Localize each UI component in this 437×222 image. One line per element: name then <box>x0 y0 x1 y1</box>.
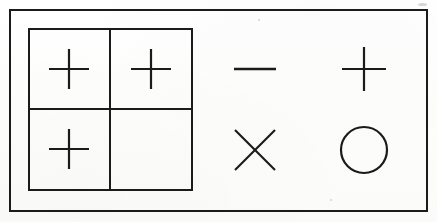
matrix-reasoning-figure <box>0 0 437 222</box>
cross-icon <box>232 127 278 173</box>
answer-option-1[interactable] <box>200 28 309 110</box>
matrix-grid <box>28 28 193 191</box>
matrix-cell-top-left[interactable] <box>30 30 111 110</box>
circle-icon <box>339 125 389 175</box>
scan-artifact <box>418 3 427 6</box>
matrix-cell-bottom-right-empty[interactable] <box>111 110 192 190</box>
matrix-cell-top-right[interactable] <box>111 30 192 110</box>
answer-option-3[interactable] <box>200 110 309 192</box>
plus-icon <box>47 47 91 91</box>
answer-option-2[interactable] <box>309 28 418 110</box>
answer-options <box>200 28 418 191</box>
answer-option-4[interactable] <box>309 110 418 192</box>
plus-icon <box>340 45 388 93</box>
plus-icon <box>129 47 173 91</box>
minus-icon <box>233 47 277 91</box>
plus-icon <box>47 127 91 171</box>
matrix-cell-bottom-left[interactable] <box>30 110 111 190</box>
